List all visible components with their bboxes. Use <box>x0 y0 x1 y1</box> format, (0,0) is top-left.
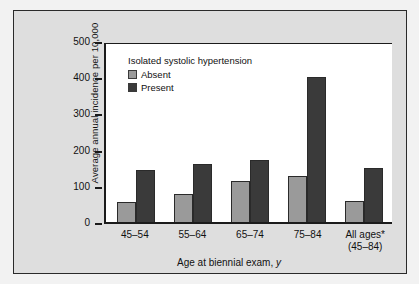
x-axis-tick-label: 75–84 <box>279 229 337 253</box>
x-axis-tick-label-main: 45–54 <box>121 229 149 240</box>
x-axis-title-unit: y <box>276 257 281 268</box>
y-axis-title: Average annual incidence per 10,000 <box>89 3 100 203</box>
y-axis-tick-label: 300 <box>73 108 90 119</box>
bar-present[interactable] <box>307 77 326 222</box>
legend-label-present: Present <box>141 82 174 93</box>
x-axis-tick-label: 45–54 <box>106 229 164 253</box>
y-axis-tick-mark <box>95 114 102 116</box>
chart-card: Average annual incidence per 10,000 0100… <box>13 10 407 274</box>
legend-label-absent: Absent <box>141 69 171 80</box>
y-axis-tick-400: 400 <box>14 79 102 80</box>
bar-present[interactable] <box>364 168 383 222</box>
x-axis-tick-labels: 45–5455–6465–7475–84All ages*(45–84) <box>106 229 394 253</box>
y-axis-tick-label: 100 <box>73 181 90 192</box>
bar-absent[interactable] <box>231 181 250 222</box>
y-axis-tick-label: 400 <box>73 72 90 83</box>
legend-item-present: Present <box>128 82 252 93</box>
y-axis-tick-mark <box>95 223 102 225</box>
x-axis-tick-label: All ages*(45–84) <box>336 229 394 253</box>
y-axis-tick-mark <box>95 151 102 153</box>
bar-absent[interactable] <box>174 194 193 222</box>
y-axis-tick-label: 500 <box>73 36 90 47</box>
x-axis-tick-label-main: All ages* <box>345 229 384 240</box>
legend-title: Isolated systolic hypertension <box>128 55 252 66</box>
legend: Isolated systolic hypertension Absent Pr… <box>128 55 252 95</box>
x-axis-tick-label-main: 75–84 <box>294 229 322 240</box>
y-axis-tick-100: 100 <box>14 188 102 189</box>
y-axis-tick-500: 500 <box>14 43 102 44</box>
x-axis-title-text: Age at biennial exam, <box>177 257 276 268</box>
y-axis-tick-label: 200 <box>73 145 90 156</box>
y-axis-tick-0: 0 <box>14 224 102 225</box>
bar-absent[interactable] <box>288 176 307 222</box>
figure-container: Average annual incidence per 10,000 0100… <box>0 0 419 284</box>
legend-item-absent: Absent <box>128 69 252 80</box>
y-axis-tick-300: 300 <box>14 115 102 116</box>
plot-area: Isolated systolic hypertension Absent Pr… <box>104 43 392 224</box>
x-axis-title: Age at biennial exam, y <box>104 257 354 268</box>
bar-absent[interactable] <box>345 201 364 222</box>
y-axis-tick-mark <box>95 42 102 44</box>
x-axis-tick-label-main: 65–74 <box>236 229 264 240</box>
legend-swatch-absent <box>128 70 137 79</box>
bar-present[interactable] <box>250 160 269 222</box>
bar-absent[interactable] <box>117 202 136 222</box>
x-axis-tick-label-main: 55–64 <box>178 229 206 240</box>
x-axis-tick-label-sub: (45–84) <box>336 241 394 253</box>
y-axis-tick-mark <box>95 78 102 80</box>
legend-swatch-present <box>128 83 137 92</box>
x-axis-tick-label: 55–64 <box>164 229 222 253</box>
bar-group <box>278 44 335 222</box>
y-axis-tick-label: 0 <box>84 217 90 228</box>
y-axis-tick-200: 200 <box>14 152 102 153</box>
bar-present[interactable] <box>193 164 212 222</box>
y-axis-tick-mark <box>95 187 102 189</box>
x-axis-tick-label: 65–74 <box>221 229 279 253</box>
bar-present[interactable] <box>136 170 155 222</box>
bar-group <box>335 44 392 222</box>
